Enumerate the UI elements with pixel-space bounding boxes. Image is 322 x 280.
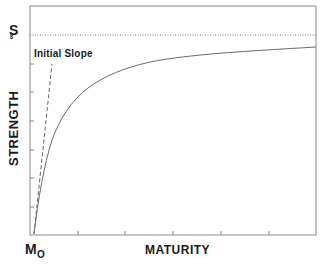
x-axis-label: MATURITY [145, 243, 210, 257]
y-axis-ticks [30, 64, 34, 207]
strength-maturity-chart [0, 0, 322, 280]
y-axis-label: STRENGTH [6, 91, 21, 167]
m-origin-label: M [25, 241, 37, 257]
s-infinity-subscript: ∞ [7, 33, 17, 39]
plot-frame [30, 6, 316, 235]
x-axis-ticks [78, 231, 269, 235]
initial-slope-annotation: Initial Slope [34, 48, 93, 59]
strength-curve [34, 47, 316, 234]
m-origin-subscript: O [37, 249, 45, 260]
